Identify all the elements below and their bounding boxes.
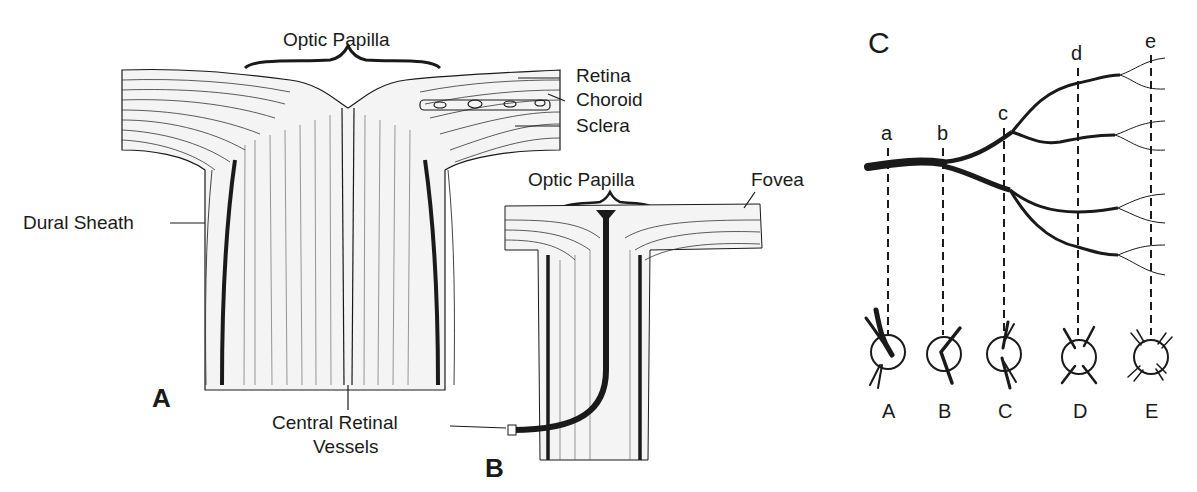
label-central-retinal-vessels-line1: Central Retinal: [272, 413, 398, 433]
label-fovea: Fovea: [751, 170, 804, 190]
optic-nerve-section-b-drawing: [440, 150, 780, 492]
label-dural-sheath: Dural Sheath: [23, 213, 134, 233]
cross-section-label-a: A: [882, 400, 895, 422]
cross-section-label-b: B: [938, 400, 951, 422]
section-marker-b: b: [937, 122, 948, 144]
section-marker-c: c: [998, 102, 1008, 124]
cross-section-label-c: C: [998, 400, 1012, 422]
section-marker-e: e: [1145, 30, 1156, 52]
label-optic-papilla-a: Optic Papilla: [283, 30, 390, 50]
label-optic-papilla-b: Optic Papilla: [528, 170, 635, 190]
section-marker-a: a: [881, 122, 892, 144]
panel-letter-b: B: [485, 455, 504, 481]
label-central-retinal-vessels-line2: Vessels: [313, 437, 378, 457]
cross-section-label-e: E: [1145, 400, 1158, 422]
cross-section-label-d: D: [1073, 400, 1087, 422]
label-choroid: Choroid: [576, 90, 643, 110]
label-sclera: Sclera: [576, 116, 630, 136]
section-marker-d: d: [1071, 42, 1082, 64]
panel-letter-c: C: [868, 30, 890, 56]
panel-c: C a b c d e A B C D E: [830, 0, 1197, 492]
panel-b: Optic Papilla Fovea B: [440, 150, 780, 492]
label-retina: Retina: [576, 66, 631, 86]
panel-letter-a: A: [152, 385, 171, 411]
